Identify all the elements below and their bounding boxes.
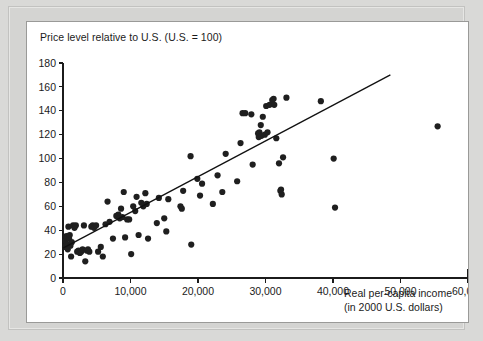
data-point [331, 155, 337, 161]
y-axis-tick-label: 160 [38, 81, 56, 93]
data-point [180, 188, 186, 194]
y-axis-tick-label: 180 [38, 57, 56, 69]
data-point [86, 249, 92, 255]
data-point [260, 114, 266, 120]
x-axis-title: Real per-capita income (in 2000 U.S. dol… [344, 286, 452, 314]
data-point [67, 232, 73, 238]
data-point [187, 153, 193, 159]
data-point [210, 201, 216, 207]
x-axis-title-line1: Real per-capita income [344, 286, 452, 300]
data-points-group [62, 95, 441, 265]
data-point [179, 206, 185, 212]
data-point [98, 244, 104, 250]
data-point [223, 151, 229, 157]
data-point [133, 194, 139, 200]
y-axis-tick-label: 120 [38, 128, 56, 140]
data-point [165, 196, 171, 202]
data-point [435, 123, 441, 129]
data-point [242, 110, 248, 116]
figure-outer-frame: Price level relative to U.S. (U.S. = 100… [8, 6, 465, 330]
y-axis-tick-label: 0 [50, 272, 56, 284]
data-point [279, 191, 285, 197]
y-axis-tick-label: 40 [44, 224, 56, 236]
x-axis-tick-label: 60,000 [452, 285, 468, 297]
data-point [118, 206, 124, 212]
data-point [271, 96, 277, 102]
data-point [104, 198, 110, 204]
data-point [219, 189, 225, 195]
data-point [197, 192, 203, 198]
x-axis-tick-label: 0 [60, 285, 66, 297]
data-point [258, 122, 264, 128]
data-point [248, 111, 254, 117]
x-axis-tick-label: 10,000 [114, 285, 146, 297]
data-point [100, 253, 106, 259]
data-point [68, 253, 74, 259]
data-point [276, 160, 282, 166]
data-point [121, 189, 127, 195]
screenshot-root: Price level relative to U.S. (U.S. = 100… [0, 0, 483, 341]
x-axis-title-line2: (in 2000 U.S. dollars) [344, 300, 452, 314]
data-point [250, 161, 256, 167]
data-point [82, 258, 88, 264]
data-point [237, 140, 243, 146]
y-axis-tick-label: 20 [44, 248, 56, 260]
y-axis-tick-label: 60 [44, 200, 56, 212]
data-point [142, 190, 148, 196]
data-point [280, 154, 286, 160]
data-point [214, 172, 220, 178]
data-point [110, 235, 116, 241]
data-point [93, 222, 99, 228]
data-point [136, 232, 142, 238]
data-point [199, 181, 205, 187]
data-point [81, 222, 87, 228]
data-point [154, 220, 160, 226]
data-point [318, 98, 324, 104]
x-axis-tick-label: 20,000 [182, 285, 214, 297]
y-axis-tick-label: 100 [38, 152, 56, 164]
y-axis-tick-label: 80 [44, 176, 56, 188]
data-point [271, 102, 277, 108]
data-point [163, 228, 169, 234]
data-point [73, 222, 79, 228]
chart-panel: Price level relative to U.S. (U.S. = 100… [26, 21, 469, 323]
x-axis-tick-label: 30,000 [249, 285, 281, 297]
y-axis: 020406080100120140160180 [38, 57, 63, 284]
y-axis-tick-label: 140 [38, 104, 56, 116]
scatter-plot: 020406080100120140160180 010,00020,00030… [27, 22, 468, 322]
trend-line [63, 75, 390, 248]
data-point [283, 95, 289, 101]
data-point [332, 204, 338, 210]
data-point [264, 129, 270, 135]
data-point [234, 178, 240, 184]
data-point [128, 251, 134, 257]
data-point [161, 215, 167, 221]
data-point [145, 235, 151, 241]
trend-line-group [63, 75, 390, 248]
data-point [126, 216, 132, 222]
data-point [122, 234, 128, 240]
data-point [188, 241, 194, 247]
